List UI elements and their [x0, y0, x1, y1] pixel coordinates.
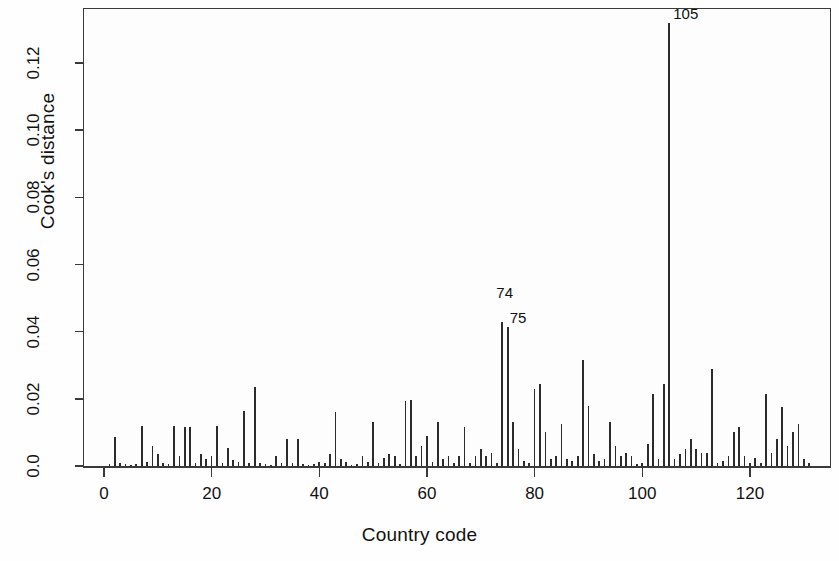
bar — [318, 462, 320, 466]
bar — [351, 465, 353, 466]
bar — [598, 461, 600, 466]
bar — [184, 427, 186, 466]
bar — [469, 463, 471, 466]
bar — [593, 454, 595, 466]
bar — [200, 454, 202, 466]
y-tick-mark — [75, 264, 84, 265]
bar — [658, 459, 660, 466]
bar — [324, 463, 326, 466]
bar — [545, 432, 547, 466]
y-tick-label-text: 0.08 — [24, 165, 44, 229]
bar — [534, 389, 536, 466]
bar — [238, 462, 240, 466]
bar — [130, 465, 132, 466]
bar — [227, 448, 229, 466]
bar — [211, 456, 213, 466]
bar — [356, 464, 358, 466]
bar — [243, 411, 245, 466]
bar — [663, 384, 665, 466]
bar — [480, 449, 482, 466]
bar — [168, 464, 170, 466]
bar — [432, 462, 434, 466]
bar — [281, 463, 283, 466]
bar — [738, 427, 740, 466]
bar — [437, 422, 439, 466]
y-tick-mark — [75, 197, 84, 198]
bar — [808, 463, 810, 466]
bar — [157, 454, 159, 466]
bar — [620, 456, 622, 466]
y-tick-label: 0.0 — [2, 456, 66, 476]
bar — [528, 463, 530, 466]
y-tick-label-text: 0.10 — [24, 98, 44, 162]
bar — [141, 426, 143, 466]
y-tick-label: 0.08 — [2, 187, 66, 207]
point-label: 74 — [496, 284, 513, 301]
bar — [205, 459, 207, 466]
bar — [179, 456, 181, 466]
bar — [297, 439, 299, 466]
bar — [152, 446, 154, 466]
bar — [771, 453, 773, 466]
y-tick-label-text: 0.12 — [24, 31, 44, 95]
bar — [254, 387, 256, 466]
bar — [475, 456, 477, 466]
bar — [625, 453, 627, 466]
bar — [308, 465, 310, 466]
bar — [383, 458, 385, 466]
x-tick-label: 20 — [182, 484, 242, 504]
bar — [259, 463, 261, 466]
bar — [458, 456, 460, 466]
bar — [588, 406, 590, 466]
bar — [690, 439, 692, 466]
bar — [679, 454, 681, 466]
x-tick-mark — [426, 467, 427, 477]
bar — [641, 463, 643, 466]
bar — [754, 458, 756, 466]
bar — [442, 459, 444, 466]
bar — [668, 23, 670, 466]
bar — [722, 461, 724, 466]
bar — [561, 424, 563, 466]
bar — [313, 464, 315, 466]
bar — [248, 463, 250, 466]
y-tick-label-text: 0.06 — [24, 233, 44, 297]
bar — [491, 453, 493, 466]
bar — [340, 459, 342, 466]
bar — [798, 424, 800, 466]
bar — [728, 456, 730, 466]
bar — [189, 427, 191, 466]
bar — [566, 459, 568, 466]
bar — [717, 463, 719, 466]
y-tick-mark — [75, 331, 84, 332]
plot-frame — [83, 8, 831, 467]
bar — [776, 439, 778, 466]
bar — [453, 463, 455, 466]
bar — [523, 461, 525, 466]
x-axis-line — [83, 467, 831, 468]
bar — [615, 446, 617, 466]
bar — [701, 453, 703, 466]
bar — [571, 461, 573, 466]
x-tick-label: 40 — [289, 484, 349, 504]
bar — [501, 322, 503, 466]
bar — [302, 464, 304, 466]
x-tick-mark — [319, 467, 320, 477]
bar — [270, 465, 272, 466]
bar — [787, 446, 789, 466]
bar — [749, 463, 751, 466]
bar — [335, 412, 337, 466]
x-tick-label: 60 — [397, 484, 457, 504]
bar — [345, 462, 347, 466]
bar — [372, 422, 374, 466]
y-tick-label-text: 0.0 — [24, 434, 44, 498]
bar — [609, 422, 611, 466]
bar — [109, 464, 111, 466]
y-tick-mark — [75, 398, 84, 399]
bar — [378, 463, 380, 466]
bar — [114, 437, 116, 466]
bar — [485, 456, 487, 466]
bar — [448, 456, 450, 466]
bar — [399, 464, 401, 466]
bar — [410, 400, 412, 466]
